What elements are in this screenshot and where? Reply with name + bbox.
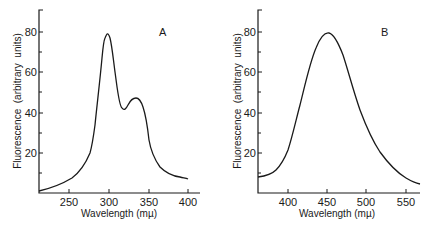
chart-panel-b: 80 60 40 20 400 450 500 550 Wavelength (… — [232, 10, 420, 219]
x-axis-label-a: Wavelength (mµ) — [81, 208, 157, 219]
spectrum-curve-a — [39, 34, 188, 191]
x-axis-label-b: Wavelength (mµ) — [299, 208, 375, 219]
x-tick-label: 250 — [60, 196, 78, 208]
y-tick-label: 80 — [244, 26, 256, 38]
x-tick-label: 550 — [397, 196, 415, 208]
y-tick-label: 60 — [244, 66, 256, 78]
y-axis-b — [258, 10, 420, 193]
y-tick-label: 40 — [25, 107, 37, 119]
x-tick-label: 300 — [100, 196, 118, 208]
y-tick-label: 20 — [25, 147, 37, 159]
x-tick-label: 450 — [318, 196, 336, 208]
figure: 80 60 40 20 250 300 350 400 Wavelength (… — [0, 0, 428, 225]
chart-panel-a: 80 60 40 20 250 300 350 400 Wavelength (… — [12, 10, 200, 219]
y-tick-label: 40 — [244, 107, 256, 119]
y-axis-label-b: Fluorescence (arbitrary units) — [232, 33, 243, 169]
y-tick-label: 60 — [25, 66, 37, 78]
y-tick-label: 20 — [244, 147, 256, 159]
panel-label-a: A — [159, 26, 167, 38]
panel-label-b: B — [381, 26, 388, 38]
y-tick-label: 80 — [25, 26, 37, 38]
x-tick-label: 350 — [140, 196, 158, 208]
x-tick-label: 500 — [357, 196, 375, 208]
spectrum-curve-b — [258, 33, 420, 184]
x-tick-label: 400 — [279, 196, 297, 208]
y-axis-label-a: Fluorescence (arbitrary units) — [12, 33, 23, 169]
x-tick-label: 400 — [179, 196, 197, 208]
